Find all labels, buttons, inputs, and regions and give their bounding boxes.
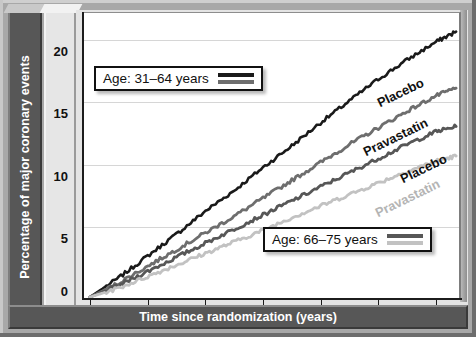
x-axis-title-bar: Time since randomization (years) (8, 305, 468, 329)
legend-label: Age: 66–75 years (272, 232, 378, 247)
plot-region: 0123456 Placebo Pravastatin Placebo Prav… (76, 10, 468, 324)
series-lines (82, 13, 461, 298)
x-axis-line (82, 298, 462, 300)
frame-bevel-bottom (0, 333, 476, 337)
legend-keys (218, 73, 254, 84)
series-line-placebo-2 (90, 125, 456, 297)
y-axis-title: Percentage of major coronary events (18, 55, 32, 279)
plot-wall-right-3d (460, 10, 467, 302)
legend-key-placebo (218, 73, 254, 77)
legend-age-66-75[interactable]: Age: 66–75 years (263, 227, 432, 252)
y-tick-label: 20 (54, 44, 68, 59)
legend-key-pravastatin (218, 80, 254, 84)
frame-bevel-left (0, 0, 3, 337)
legend-age-31-64[interactable]: Age: 31–64 years (94, 66, 263, 91)
x-axis-title: Time since randomization (years) (139, 310, 337, 324)
plot-area (82, 12, 461, 298)
y-tick-label: 10 (54, 169, 68, 184)
legend-label: Age: 31–64 years (103, 71, 209, 86)
y-tick-label: 15 (54, 106, 68, 121)
y-tick-label: 0 (61, 284, 68, 299)
frame-bevel-right (472, 0, 476, 337)
y-axis-labels-panel: 20 15 10 5 0 (44, 10, 76, 324)
chart-root: Percentage of major coronary events 20 1… (0, 0, 476, 337)
y-axis-title-bar: Percentage of major coronary events (8, 10, 42, 324)
y-axis-line (82, 12, 84, 300)
y-tick-label: 5 (61, 231, 68, 246)
legend-key-pravastatin (387, 241, 423, 245)
legend-key-placebo (387, 234, 423, 238)
frame-bevel-top (0, 0, 476, 3)
legend-keys (387, 234, 423, 245)
